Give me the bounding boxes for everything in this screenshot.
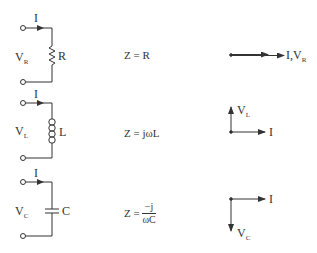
phasor-label-sub: L [246,111,250,119]
voltage-label-main: V [15,50,24,64]
impedance-equation: Z = R [124,50,150,61]
voltage-label-sub: R [24,58,29,66]
inductor-coil-icon [49,119,55,143]
terminal-bottom-icon [21,156,26,161]
phasor-label-sub: R [302,56,307,64]
impedance-fraction: −jωC [142,202,155,225]
component-label: R [58,50,66,62]
phasor-right-label: I [269,193,273,205]
fraction-numerator: −j [142,202,155,214]
impedance-equation: Z = −jωC [124,202,156,225]
terminal-top-icon [21,101,26,106]
voltage-label: VC [15,205,28,220]
impedance-lhs: Z = [124,127,140,139]
resistor-phasor [230,54,284,57]
current-label: I [34,12,38,24]
current-label: I [34,88,38,100]
phasor-right-label: I [269,126,273,138]
voltage-label-sub: C [24,212,29,220]
phasor-down-label: VC [237,227,250,242]
phasor-label-main: V [237,226,246,240]
phasor-label: I,VR [286,49,306,64]
impedance-rhs: jωL [142,127,159,139]
current-label: I [34,167,38,179]
impedance-rhs: R [142,49,149,61]
impedance-lhs: Z = [124,207,140,219]
voltage-label: VR [15,51,28,66]
terminal-bottom-icon [21,80,26,85]
impedance-equation: Z = jωL [124,128,159,139]
component-label: C [62,205,70,217]
current-arrow-icon [37,179,44,185]
capacitor-phasor [230,198,265,231]
phasor-label-main: I,V [286,48,302,62]
current-arrow-icon [37,25,44,31]
phasor-label-sub: C [246,234,251,242]
voltage-label-main: V [15,124,24,138]
phasor-label-main: V [237,103,246,117]
component-label: L [59,126,66,138]
terminal-bottom-icon [21,234,26,239]
voltage-label-main: V [15,204,24,218]
resistor-icon [49,46,55,65]
voltage-label: VL [15,125,28,140]
current-arrow-icon [37,100,44,106]
fraction-denominator: ωC [142,214,155,225]
impedance-lhs: Z = [124,49,140,61]
phasor-up-label: VL [237,104,250,119]
terminal-top-icon [21,26,26,31]
terminal-top-icon [21,180,26,185]
voltage-label-sub: L [24,132,28,140]
